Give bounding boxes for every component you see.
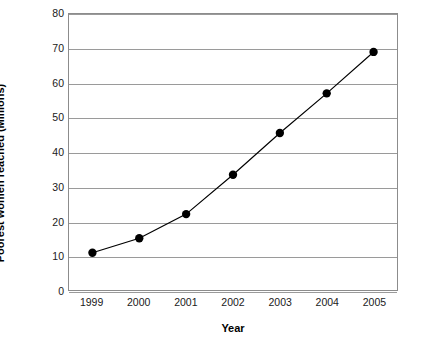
x-tick-label: 2000 [116, 296, 162, 308]
data-series-layer [69, 14, 397, 290]
y-tick-label: 70 [40, 42, 64, 54]
y-axis-tick-labels: 01020304050607080 [38, 13, 64, 291]
data-point-2003 [276, 129, 284, 137]
line-chart: Poorest women reached (Millions) 0102030… [0, 0, 440, 346]
y-tick-label: 40 [40, 146, 64, 158]
x-tick-label: 2005 [351, 296, 397, 308]
x-tick-label: 2004 [304, 296, 350, 308]
data-point-2001 [182, 210, 190, 218]
plot-area [68, 13, 398, 291]
data-point-1999 [88, 249, 96, 257]
x-axis-title: Year [68, 322, 398, 334]
x-tick-label: 1999 [69, 296, 115, 308]
y-tick-label: 0 [40, 285, 64, 297]
y-tick-label: 20 [40, 216, 64, 228]
x-tick-label: 2002 [210, 296, 256, 308]
y-tick-label: 10 [40, 250, 64, 262]
x-tick-label: 2001 [163, 296, 209, 308]
gridline-0 [69, 292, 397, 293]
y-tick-label: 30 [40, 181, 64, 193]
data-point-2002 [229, 171, 237, 179]
x-axis-tick-labels: 1999200020012002200320042005 [68, 296, 398, 312]
data-line [92, 52, 373, 253]
y-tick-label: 80 [40, 7, 64, 19]
data-point-2004 [323, 89, 331, 97]
y-tick-label: 60 [40, 77, 64, 89]
data-point-2000 [135, 234, 143, 242]
data-point-2005 [369, 48, 377, 56]
y-tick-label: 50 [40, 111, 64, 123]
x-tick-label: 2003 [257, 296, 303, 308]
